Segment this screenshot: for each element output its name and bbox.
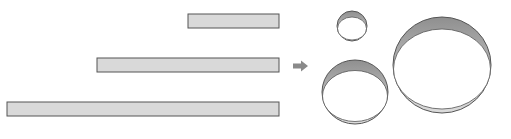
strip-long (7, 102, 279, 116)
right-arrow-icon (293, 61, 308, 72)
ring-small (337, 11, 367, 41)
strip-medium (97, 58, 279, 72)
ring-large (393, 17, 491, 113)
strip-short (188, 14, 279, 28)
strips-to-rings-diagram (0, 0, 511, 139)
ring-medium (322, 60, 388, 124)
strips-group (7, 14, 279, 116)
